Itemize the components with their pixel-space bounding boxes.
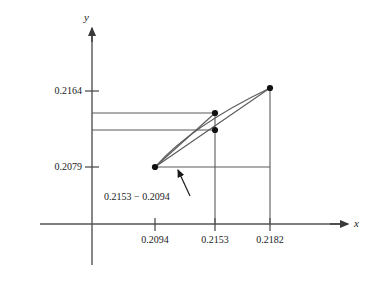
difference-annotation: 0.2153 − 0.2094 xyxy=(104,192,170,202)
figure-canvas: y x 0.2164 0.2079 0.2094 0.2153 0.2182 0… xyxy=(0,0,378,299)
annotation-arrow-icon xyxy=(178,170,190,196)
x-tick-label-2: 0.2182 xyxy=(242,235,298,245)
y-tick-label-0: 0.2164 xyxy=(38,86,82,96)
data-point-right xyxy=(267,85,273,91)
data-point-secant-mid xyxy=(212,127,218,133)
x-tick-label-1: 0.2153 xyxy=(187,235,243,245)
x-tick-label-0: 0.2094 xyxy=(127,235,183,245)
y-tick-label-1: 0.2079 xyxy=(38,162,82,172)
data-point-curve-mid xyxy=(212,110,218,116)
diagram-svg xyxy=(0,0,378,299)
x-axis-label: x xyxy=(354,218,359,229)
secant-line xyxy=(155,88,270,167)
data-point-left xyxy=(152,164,158,170)
y-axis-label: y xyxy=(84,12,89,23)
chord-to-curve-point xyxy=(155,113,215,167)
